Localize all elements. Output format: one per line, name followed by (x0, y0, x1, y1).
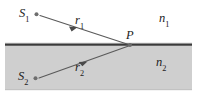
label-index-n2-subscript: 2 (162, 64, 166, 73)
label-point-p: P (126, 29, 134, 42)
label-index-n1: n1 (159, 12, 169, 28)
label-source-s1-subscript: 1 (25, 15, 29, 24)
ray-r1-line (40, 16, 130, 46)
label-index-n1-subscript: 1 (165, 20, 169, 29)
label-source-s2-subscript: 2 (24, 78, 28, 87)
source-s1-dot (35, 12, 39, 16)
refraction-figure: S1 r1 P n1 n2 r2 S2 (0, 0, 204, 97)
figure-canvas (0, 0, 204, 97)
label-ray-r2: r2 (75, 61, 84, 77)
label-ray-r1: r1 (75, 14, 84, 30)
medium-n2-bottom-edge (5, 89, 192, 90)
label-ray-r1-subscript: 1 (80, 22, 84, 31)
label-index-n2: n2 (156, 56, 166, 72)
point-p-dot (128, 43, 132, 47)
source-s2-dot (34, 76, 38, 80)
label-ray-r2-subscript: 2 (80, 69, 84, 78)
label-source-s2: S2 (18, 70, 28, 86)
label-source-s1: S1 (19, 7, 29, 23)
